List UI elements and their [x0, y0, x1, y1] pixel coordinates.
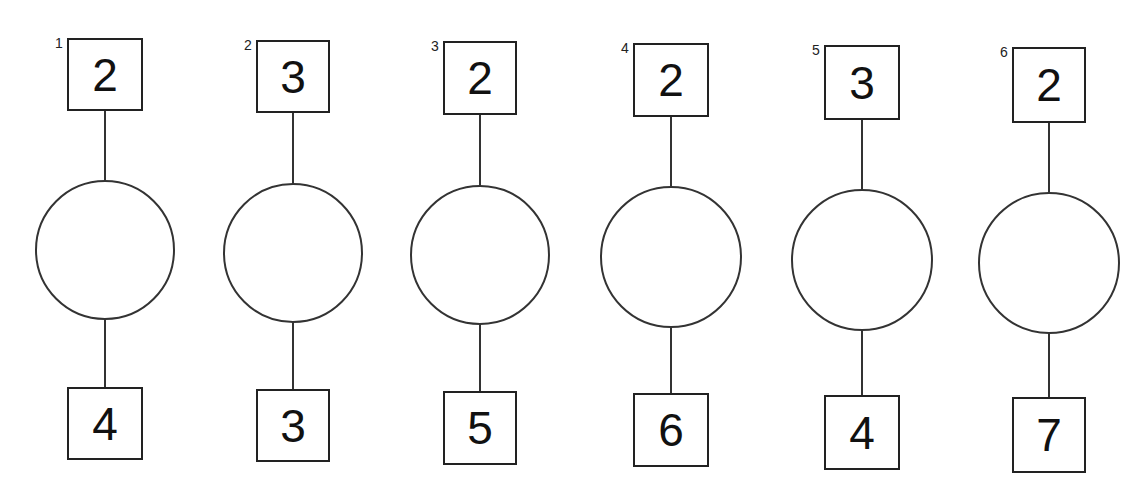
unit-index-label: 6: [1000, 45, 1008, 59]
unit-index-label: 4: [621, 41, 629, 55]
upper-connector-line: [292, 113, 294, 184]
lower-connector-line: [1048, 333, 1050, 397]
lower-connector-line: [292, 322, 294, 389]
unit-index-label: 2: [244, 38, 252, 52]
top-box: 3: [824, 45, 900, 120]
unit-index-label: 5: [812, 43, 820, 57]
center-circle: [600, 186, 742, 328]
top-box: 2: [443, 41, 517, 115]
center-circle: [791, 189, 933, 331]
top-box: 2: [67, 38, 143, 111]
upper-connector-line: [861, 120, 863, 190]
upper-connector-line: [104, 111, 106, 181]
center-circle: [410, 185, 550, 325]
top-box: 3: [256, 40, 330, 113]
lower-connector-line: [670, 327, 672, 393]
lower-connector-line: [104, 319, 106, 387]
unit-index-label: 1: [55, 36, 63, 50]
upper-connector-line: [670, 117, 672, 187]
top-box: 2: [633, 43, 709, 117]
upper-connector-line: [1048, 123, 1050, 193]
bottom-box: 7: [1012, 397, 1086, 473]
center-circle: [35, 180, 175, 320]
lower-connector-line: [479, 324, 481, 391]
bottom-box: 5: [443, 391, 517, 465]
center-circle: [223, 183, 363, 323]
bottom-box: 4: [824, 395, 900, 470]
lower-connector-line: [861, 330, 863, 395]
upper-connector-line: [479, 115, 481, 186]
unit-index-label: 3: [431, 39, 439, 53]
center-circle: [978, 192, 1120, 334]
bottom-box: 6: [633, 393, 709, 467]
bottom-box: 4: [67, 387, 143, 460]
bottom-box: 3: [256, 389, 330, 462]
top-box: 2: [1012, 47, 1086, 123]
